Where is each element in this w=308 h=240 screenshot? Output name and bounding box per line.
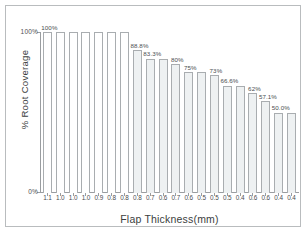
bar-slot: 62% xyxy=(247,32,260,193)
bar xyxy=(236,86,245,193)
bar-slot xyxy=(118,32,131,193)
bar xyxy=(81,32,90,193)
x-tick-label: 0.5 xyxy=(195,194,208,201)
x-tick-label: 0.6 xyxy=(247,194,260,201)
x-tick-label: 1.0 xyxy=(67,194,80,201)
x-tick-label: 0.8 xyxy=(105,194,118,201)
x-tick-label: 0.6 xyxy=(182,194,195,201)
bar-slot: 75% xyxy=(182,32,195,193)
bar-slot xyxy=(105,32,118,193)
y-axis-title: % Root Coverage xyxy=(19,25,30,155)
bar-slot: 73% xyxy=(208,32,221,193)
x-tick-label: 0.7 xyxy=(144,194,157,201)
x-tick-label: 0.6 xyxy=(157,194,170,201)
bar xyxy=(171,64,180,193)
bar xyxy=(261,101,270,193)
x-tick-label: 0.8 xyxy=(118,194,131,201)
y-tick-label-0: 0% xyxy=(8,188,38,195)
bar-series: 100%88.8%83.3%80%75%73%66.6%62%57.1%50.0… xyxy=(41,32,298,193)
bar-slot xyxy=(92,32,105,193)
x-tick-label: 0.5 xyxy=(221,194,234,201)
bar-slot xyxy=(80,32,93,193)
bar-slot: 80% xyxy=(169,32,182,193)
figure-container: 100% 0% % Root Coverage 100%88.8%83.3%80… xyxy=(0,0,308,240)
bar xyxy=(133,50,142,193)
bar-value-label: 100% xyxy=(41,24,57,31)
bar-slot xyxy=(195,32,208,193)
clipped-caption xyxy=(6,231,256,236)
bar xyxy=(197,72,206,193)
bar-slot: 50.0% xyxy=(272,32,285,193)
bar xyxy=(120,32,129,193)
x-tick-label: 0.5 xyxy=(208,194,221,201)
bar-slot: 83.3% xyxy=(144,32,157,193)
bar-slot: 57.1% xyxy=(259,32,272,193)
bar xyxy=(274,113,283,194)
bar xyxy=(248,93,257,193)
figure-frame: 100% 0% % Root Coverage 100%88.8%83.3%80… xyxy=(5,5,301,227)
bar xyxy=(210,75,219,193)
bar xyxy=(146,59,155,193)
x-tick-labels: 1.11.01.01.00.90.80.80.80.70.60.70.60.50… xyxy=(41,194,298,201)
bar-slot: 100% xyxy=(41,32,54,193)
x-tick-label: 0.6 xyxy=(259,194,272,201)
bar-slot: 88.8% xyxy=(131,32,144,193)
x-tick-label: 0.8 xyxy=(131,194,144,201)
bar xyxy=(56,32,65,193)
bar xyxy=(107,32,116,193)
bar xyxy=(94,32,103,193)
x-tick-label: 1.1 xyxy=(41,194,54,201)
x-tick-label: 1.0 xyxy=(54,194,67,201)
bar xyxy=(43,32,52,193)
x-tick-label: 0.4 xyxy=(234,194,247,201)
x-tick-label: 0.4 xyxy=(285,194,298,201)
bar xyxy=(69,32,78,193)
bar-slot xyxy=(67,32,80,193)
bar-slot xyxy=(285,32,298,193)
bar xyxy=(159,59,168,193)
x-tick-label: 0.7 xyxy=(169,194,182,201)
x-tick-label: 0.9 xyxy=(92,194,105,201)
x-tick-label: 1.0 xyxy=(80,194,93,201)
x-tick-label: 0.4 xyxy=(272,194,285,201)
x-axis-title: Flap Thickness(mm) xyxy=(40,213,299,225)
bar xyxy=(223,86,232,193)
bar-slot xyxy=(234,32,247,193)
bar xyxy=(287,113,296,194)
bar-slot xyxy=(54,32,67,193)
bar-slot: 66.6% xyxy=(221,32,234,193)
bar xyxy=(184,72,193,193)
bar-slot xyxy=(157,32,170,193)
